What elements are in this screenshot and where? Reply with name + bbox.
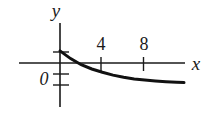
origin-label: 0	[40, 69, 49, 89]
y-axis-label: y	[50, 0, 61, 21]
graph: y x 4 8 0	[0, 0, 216, 137]
tick-label-4: 4	[97, 34, 106, 54]
tick-label-8: 8	[140, 34, 149, 54]
x-axis-label: x	[191, 53, 201, 74]
curve	[60, 51, 184, 83]
